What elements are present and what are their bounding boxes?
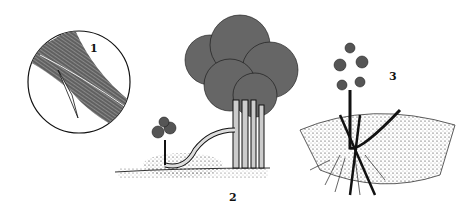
- panel-3-rooted-layer: [300, 43, 455, 195]
- panel-2-label: 2: [229, 191, 237, 204]
- panel-1-magnified-stem: [28, 30, 135, 133]
- panel-1-label: 1: [90, 42, 98, 55]
- illustration-canvas: [0, 0, 464, 215]
- panel-3-label: 3: [389, 70, 397, 83]
- panel-2-shrub-layering: [115, 15, 298, 178]
